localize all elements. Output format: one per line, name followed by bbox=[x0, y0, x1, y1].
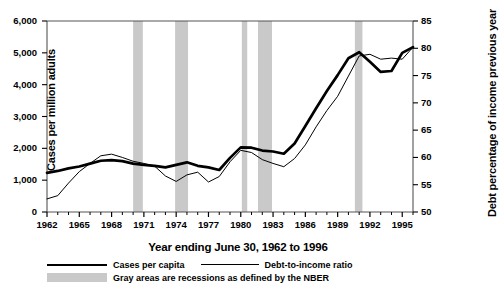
legend-item-cases: Cases per capita bbox=[47, 260, 185, 270]
y-tick-label-left: 4,000 bbox=[0, 79, 37, 90]
y-tick-label-right: 70 bbox=[421, 97, 461, 108]
chart-legend: Cases per capita Debt-to-income ratio Gr… bbox=[47, 258, 369, 284]
recession-bands bbox=[133, 21, 362, 212]
y-tick-label-left: 2,000 bbox=[0, 142, 37, 153]
x-tick-label: 1995 bbox=[382, 219, 422, 230]
legend-swatch-thick-line bbox=[47, 264, 107, 266]
y-tick-label-left: 1,000 bbox=[0, 174, 37, 185]
legend-item-recession: Gray areas are recessions as defined by … bbox=[47, 273, 329, 283]
y-tick-label-left: 3,000 bbox=[0, 111, 37, 122]
y-tick-label-right: 60 bbox=[421, 151, 461, 162]
recession-band bbox=[355, 21, 363, 212]
recession-band bbox=[242, 21, 247, 212]
legend-row-lines: Cases per capita Debt-to-income ratio bbox=[47, 258, 369, 271]
y-tick-label-right: 50 bbox=[421, 206, 461, 217]
legend-swatch-gray-band bbox=[47, 273, 107, 282]
y-tick-label-right: 55 bbox=[421, 179, 461, 190]
y-tick-label-left: 0 bbox=[0, 206, 37, 217]
y-tick-label-right: 75 bbox=[421, 70, 461, 81]
legend-label-cases: Cases per capita bbox=[113, 260, 185, 270]
recession-band bbox=[175, 21, 188, 212]
x-axis-title: Year ending June 30, 1962 to 1996 bbox=[0, 241, 476, 253]
y-tick-label-left: 6,000 bbox=[0, 15, 37, 26]
recession-band bbox=[133, 21, 143, 212]
y-tick-label-left: 5,000 bbox=[0, 47, 37, 58]
legend-item-debt: Debt-to-income ratio bbox=[201, 260, 353, 270]
y-tick-label-right: 80 bbox=[421, 42, 461, 53]
y-tick-label-right: 65 bbox=[421, 124, 461, 135]
recession-band bbox=[258, 21, 272, 212]
y-tick-label-right: 85 bbox=[421, 15, 461, 26]
legend-label-debt: Debt-to-income ratio bbox=[265, 260, 353, 270]
legend-swatch-thin-line bbox=[201, 264, 259, 265]
plot-area bbox=[0, 0, 476, 240]
legend-row-recession: Gray areas are recessions as defined by … bbox=[47, 271, 369, 284]
legend-label-recession: Gray areas are recessions as defined by … bbox=[113, 273, 329, 283]
